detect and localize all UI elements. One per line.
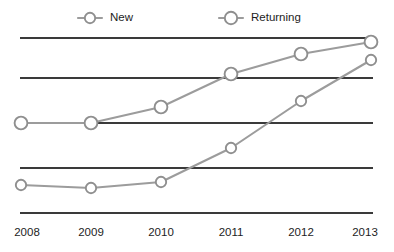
returning-point[interactable] — [85, 117, 98, 130]
x-tick-label: 2009 — [78, 226, 104, 238]
new-point[interactable] — [156, 177, 166, 187]
x-tick-label: 2011 — [219, 226, 244, 238]
x-tick-label: 2012 — [288, 226, 314, 238]
new-point[interactable] — [16, 180, 26, 190]
returning-point[interactable] — [225, 68, 238, 81]
new-point[interactable] — [226, 143, 236, 153]
x-tick-label: 2010 — [148, 226, 174, 238]
legend-item-returning[interactable]: Returning — [219, 11, 301, 24]
new-point[interactable] — [366, 55, 376, 65]
chart-container: New Returning 200820092010201120122013 — [0, 0, 394, 252]
returning-point[interactable] — [365, 36, 378, 49]
new-point[interactable] — [296, 96, 306, 106]
x-tick-label: 2013 — [352, 226, 378, 238]
new-point[interactable] — [86, 183, 96, 193]
x-tick-label: 2008 — [14, 226, 40, 238]
returning-point[interactable] — [155, 101, 168, 114]
returning-point[interactable] — [295, 48, 308, 61]
line-chart: New Returning 200820092010201120122013 — [0, 0, 394, 252]
legend-label-new: New — [110, 11, 134, 23]
returning-point[interactable] — [15, 117, 28, 130]
legend-label-returning: Returning — [251, 11, 301, 23]
